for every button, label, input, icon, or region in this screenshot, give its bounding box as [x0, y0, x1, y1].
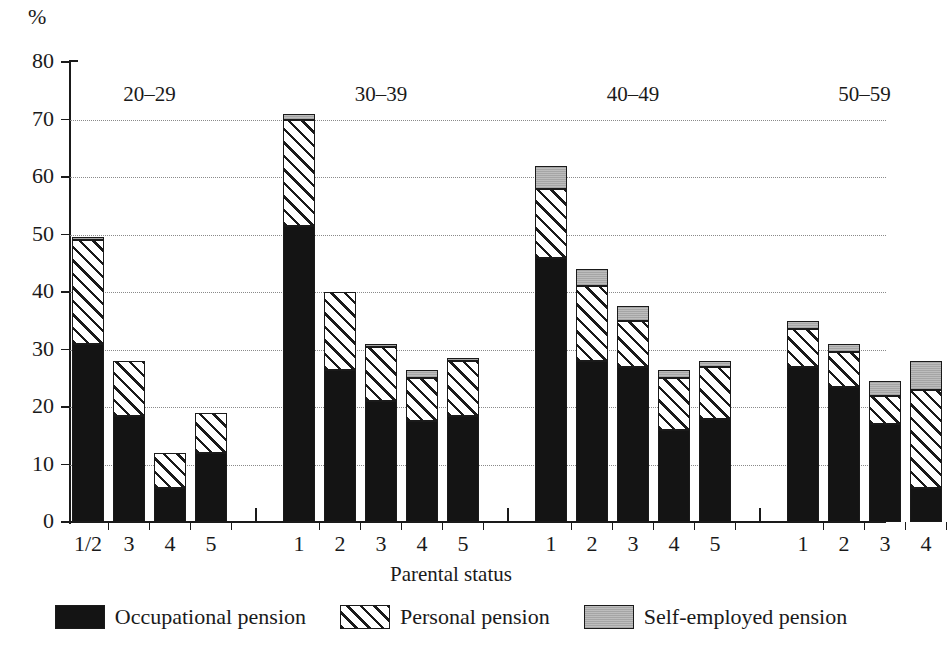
- bar-segment-self-employed: [828, 344, 860, 353]
- bar-segment-occupational: [617, 367, 649, 522]
- legend-item-occupational[interactable]: Occupational pension: [55, 604, 306, 630]
- bar-2-1: [576, 269, 608, 522]
- x-tick: [231, 522, 232, 530]
- y-tick-50: [61, 234, 70, 236]
- bar-segment-self-employed: [910, 361, 942, 390]
- y-tick-label-40: 40: [8, 280, 54, 302]
- y-tick-label-0: 0: [8, 510, 54, 532]
- bar-3-1: [828, 344, 860, 522]
- bar-1-2: [365, 344, 397, 522]
- y-tick-60: [61, 176, 70, 178]
- bar-segment-personal: [869, 396, 901, 425]
- bar-segment-personal: [195, 413, 227, 453]
- legend-item-personal[interactable]: Personal pension: [340, 604, 550, 630]
- y-tick-label-80: 80: [8, 50, 54, 72]
- group-header-3: 50–59: [747, 82, 951, 107]
- x-tick: [401, 522, 402, 530]
- legend-label-occupational: Occupational pension: [115, 604, 306, 630]
- bar-segment-personal: [324, 292, 356, 370]
- bar-segment-occupational: [869, 424, 901, 522]
- x-tick-label-1-4: 5: [433, 531, 493, 557]
- bar-0-1: [113, 361, 145, 522]
- bar-segment-personal: [787, 329, 819, 366]
- legend-swatch-personal: [340, 605, 390, 629]
- bar-segment-personal: [406, 378, 438, 421]
- bar-segment-self-employed: [365, 344, 397, 347]
- bar-1-4: [447, 358, 479, 522]
- y-tick-label-70: 70: [8, 108, 54, 130]
- bar-segment-personal: [154, 453, 186, 488]
- bar-segment-occupational: [365, 401, 397, 522]
- x-tick-label-0-3: 5: [181, 531, 241, 557]
- x-tick: [319, 522, 320, 530]
- y-tick-label-50: 50: [8, 223, 54, 245]
- x-tick: [442, 522, 443, 530]
- bar-segment-self-employed: [787, 321, 819, 330]
- bar-segment-personal: [910, 390, 942, 488]
- bar-segment-personal: [576, 286, 608, 361]
- y-tick-label-10: 10: [8, 453, 54, 475]
- bar-segment-self-employed: [72, 237, 104, 240]
- y-tick-0: [61, 521, 70, 523]
- gridline-50: [70, 235, 886, 236]
- gridline-60: [70, 177, 886, 178]
- bar-segment-occupational: [699, 419, 731, 523]
- x-tick: [571, 522, 572, 530]
- x-tick: [149, 522, 150, 530]
- gridline-30: [70, 350, 886, 351]
- x-tick: [946, 522, 947, 530]
- x-tick-label-2-4: 5: [685, 531, 745, 557]
- bar-segment-occupational: [576, 361, 608, 522]
- bar-segment-personal: [535, 189, 567, 258]
- legend-swatch-self_employed: [584, 605, 634, 629]
- bar-segment-occupational: [324, 370, 356, 522]
- x-tick: [190, 522, 191, 530]
- x-tick: [612, 522, 613, 530]
- bar-0-3: [195, 413, 227, 522]
- group-separator-tick-2: [759, 508, 761, 522]
- bar-0-2: [154, 453, 186, 522]
- y-tick-label-60: 60: [8, 165, 54, 187]
- bar-segment-self-employed: [617, 306, 649, 320]
- bar-3-3: [910, 361, 942, 522]
- y-tick-30: [61, 349, 70, 351]
- group-separator-tick-1: [507, 508, 509, 522]
- bar-1-1: [324, 292, 356, 522]
- bar-segment-self-employed: [869, 381, 901, 395]
- legend-item-self_employed[interactable]: Self-employed pension: [584, 604, 847, 630]
- bar-segment-personal: [365, 347, 397, 402]
- x-tick: [694, 522, 695, 530]
- y-axis-unit-label: %: [28, 4, 47, 30]
- bar-segment-occupational: [283, 226, 315, 522]
- bar-segment-personal: [617, 321, 649, 367]
- bar-segment-occupational: [113, 416, 145, 522]
- y-tick-70: [61, 119, 70, 121]
- x-tick: [108, 522, 109, 530]
- y-tick-10: [61, 464, 70, 466]
- legend-label-self_employed: Self-employed pension: [644, 604, 847, 630]
- bar-3-2: [869, 381, 901, 522]
- bar-segment-occupational: [72, 344, 104, 522]
- group-header-0: 20–29: [32, 82, 267, 107]
- x-tick: [360, 522, 361, 530]
- bar-3-0: [787, 321, 819, 522]
- bar-1-0: [283, 114, 315, 522]
- bar-segment-personal: [699, 367, 731, 419]
- bar-segment-self-employed: [535, 166, 567, 189]
- bar-segment-self-employed: [447, 358, 479, 361]
- x-axis-title: Parental status: [0, 562, 902, 587]
- bar-1-3: [406, 370, 438, 522]
- gridline-40: [70, 292, 886, 293]
- x-tick: [483, 522, 484, 530]
- bar-segment-personal: [283, 120, 315, 226]
- bar-segment-occupational: [195, 453, 227, 522]
- bar-segment-occupational: [535, 258, 567, 523]
- bar-segment-personal: [828, 352, 860, 387]
- legend-swatch-occupational: [55, 605, 105, 629]
- x-tick: [735, 522, 736, 530]
- gridline-70: [70, 120, 886, 121]
- legend-label-personal: Personal pension: [400, 604, 550, 630]
- y-tick-40: [61, 291, 70, 293]
- bar-2-0: [535, 166, 567, 523]
